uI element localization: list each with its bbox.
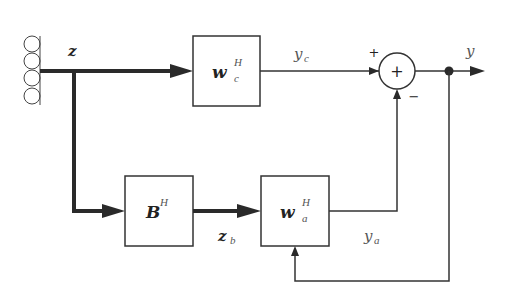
block-B-sup: H (159, 196, 169, 208)
output-arrow-icon (470, 66, 485, 76)
gsc-block-diagram: z w H c y c + + − y B H z b w H a y a (0, 0, 511, 293)
block-wc: w H c (193, 36, 260, 106)
ya-sub: a (374, 234, 380, 246)
output-label-y: y (465, 42, 475, 60)
block-wa: w H a (261, 176, 329, 246)
ya-line (329, 99, 397, 211)
block-wc-sup: H (233, 56, 243, 68)
block-wc-sub: c (234, 72, 239, 84)
input-label-z: z (67, 42, 77, 60)
yc-label: y (293, 45, 303, 63)
yc-sub: c (304, 52, 309, 64)
zb-sub: b (230, 234, 236, 246)
block-wa-sup: H (301, 196, 311, 208)
block-B: B H (125, 176, 193, 246)
summing-junction: + + − (369, 45, 420, 104)
minus-sign: − (409, 89, 420, 104)
sensor-array-icon (24, 36, 40, 105)
block-wa-main: w (280, 202, 296, 222)
sum-symbol: + (390, 62, 403, 81)
plus-sign: + (369, 45, 380, 60)
feedback-arrow-icon (291, 246, 299, 256)
block-wc-main: w (212, 62, 228, 82)
block-B-main: B (145, 202, 160, 222)
ya-label: y (363, 227, 373, 245)
block-wa-sub: a (302, 212, 308, 224)
zb-label: z (217, 227, 227, 245)
